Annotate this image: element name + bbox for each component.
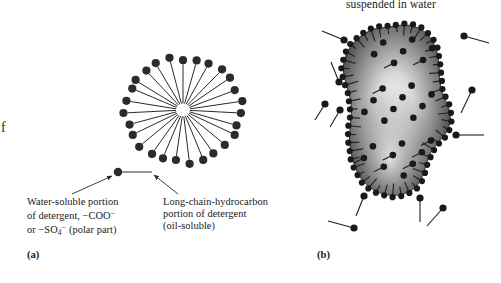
surface-molecule-head — [365, 185, 371, 191]
surface-molecule-head — [424, 162, 430, 168]
free-molecule-head — [468, 86, 475, 93]
surface-molecule-head — [373, 190, 379, 196]
free-molecule-head — [336, 106, 343, 113]
interior-head-dot — [408, 82, 415, 89]
surface-molecule-head — [442, 134, 448, 140]
surface-molecule-head — [410, 21, 416, 27]
surface-molecule-head — [347, 148, 353, 154]
surface-molecule-head — [347, 106, 353, 112]
micelle-head-dot — [131, 76, 139, 84]
callout-line-3: (oil-soluble) — [163, 220, 268, 232]
surface-molecule-head — [418, 24, 424, 30]
interior-head-dot — [410, 114, 417, 121]
surface-molecule-head — [393, 22, 399, 28]
surface-molecule-head — [348, 156, 354, 162]
micelle-head-dot — [122, 97, 130, 105]
free-molecule-head — [360, 192, 367, 199]
micelle-head-dot — [186, 160, 194, 168]
interior-head-dot — [400, 172, 407, 179]
surface-molecule-head — [345, 140, 351, 146]
caption-leader-lines — [72, 175, 178, 194]
micelle-head-dot — [221, 141, 229, 149]
panel-label-a: (a) — [27, 249, 39, 260]
surface-molecule-head — [345, 131, 351, 137]
micelle-head-dot — [142, 66, 150, 74]
surface-molecule-head — [343, 48, 349, 54]
surface-molecule-head — [347, 41, 353, 47]
micelle-head-dot — [209, 149, 217, 157]
surface-molecule-head — [340, 57, 346, 63]
surface-molecule-head — [342, 82, 348, 88]
interior-head-dot — [399, 140, 406, 147]
interior-head-dot — [381, 117, 388, 124]
micelle-tail — [164, 116, 180, 154]
free-molecule-head — [335, 78, 342, 85]
surface-molecule-head — [345, 123, 351, 129]
callout-line-3: or −SO4− (polar part) — [27, 222, 118, 239]
interior-head-dot — [370, 143, 377, 150]
surface-molecule-head — [442, 94, 448, 100]
interior-head-dot — [419, 149, 426, 156]
micelle-head-dot — [218, 65, 226, 73]
surface-molecule-head — [351, 164, 357, 170]
surface-molecule-head — [384, 23, 390, 29]
interior-head-dot — [399, 94, 406, 101]
surface-molecule-head — [437, 61, 443, 67]
micelle-head-dot — [148, 150, 156, 158]
surface-molecule-head — [439, 86, 445, 92]
panel-label-b: (b) — [317, 249, 330, 260]
micelle-head-dot — [199, 156, 207, 164]
surface-molecule-head — [406, 190, 412, 196]
micelle-tail — [190, 110, 237, 112]
leader-line — [72, 176, 112, 194]
charge-superscript: − — [111, 209, 116, 218]
micelle-diagram — [119, 54, 246, 168]
micelle-head-dot — [128, 84, 136, 92]
interior-head-dot — [428, 91, 435, 98]
interior-head-dot — [400, 48, 407, 55]
interior-head-dot — [379, 85, 386, 92]
surface-molecule-head — [381, 192, 387, 198]
micelle-tail — [149, 74, 178, 105]
interior-head-dot — [370, 97, 377, 104]
micelle-tail — [142, 114, 178, 144]
surface-molecule-head — [448, 110, 454, 116]
surface-molecule-head — [425, 30, 431, 36]
free-molecule-head — [460, 32, 467, 39]
micelle-head-dot — [135, 143, 143, 151]
surface-molecule-head — [347, 114, 353, 120]
micelle-head-dot — [238, 97, 246, 105]
micelle-tail — [130, 101, 176, 108]
interior-head-dot — [429, 45, 436, 52]
interior-head-dot — [371, 51, 378, 58]
micelle-tail — [190, 112, 233, 124]
surface-molecule-head — [448, 118, 454, 124]
micelle-head-dot — [125, 120, 133, 128]
interior-head-dot — [409, 161, 416, 168]
micelle-head-dot — [237, 109, 245, 117]
surface-molecule-head — [338, 65, 344, 71]
micelle-head-dot — [232, 121, 240, 129]
surface-molecule-head — [446, 127, 452, 133]
surface-molecule-head — [368, 25, 374, 31]
surface-molecule-head — [427, 154, 433, 160]
free-molecule-head — [350, 224, 357, 231]
free-molecule-head — [452, 131, 459, 138]
micelle-tail — [136, 113, 177, 133]
surface-molecule-head — [430, 37, 436, 43]
surface-molecule-head — [446, 101, 452, 107]
surface-molecule-head — [439, 78, 445, 84]
micelle-head-dot — [172, 156, 180, 164]
surface-molecule-head — [376, 23, 382, 29]
figure-detergent-action: f suspended in water — [0, 0, 501, 283]
surface-molecule-head — [360, 30, 366, 36]
leader-line — [154, 175, 178, 194]
callout-long-chain-hydrocarbon: Long-chain-hydrocarbon portion of deterg… — [163, 196, 268, 233]
interior-head-dot — [419, 103, 426, 110]
micelle-head-dot — [152, 59, 160, 67]
surface-molecule-head — [431, 147, 437, 153]
surface-molecule-head — [436, 140, 442, 146]
micelle-head-dot — [226, 74, 234, 82]
surface-molecule-head — [346, 98, 352, 104]
micelle-tail — [189, 92, 231, 108]
